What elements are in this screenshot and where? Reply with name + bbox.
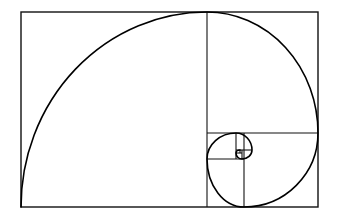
fibonacci-figure-root bbox=[0, 0, 340, 223]
figure-background bbox=[0, 0, 340, 223]
fibonacci-spiral-svg bbox=[0, 0, 340, 223]
